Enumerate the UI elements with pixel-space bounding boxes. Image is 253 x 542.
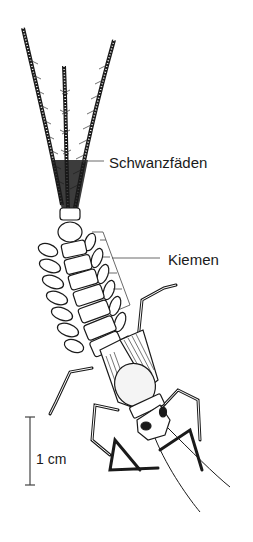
abdomen bbox=[37, 208, 129, 357]
right-eye bbox=[160, 407, 167, 417]
label-scale: 1 cm bbox=[36, 452, 66, 466]
left-eye bbox=[141, 422, 151, 430]
label-gills: Kiemen bbox=[168, 252, 219, 267]
label-tail-filaments: Schwanzfäden bbox=[109, 155, 207, 170]
scale-bar bbox=[25, 417, 35, 485]
tail-filaments bbox=[23, 28, 114, 210]
